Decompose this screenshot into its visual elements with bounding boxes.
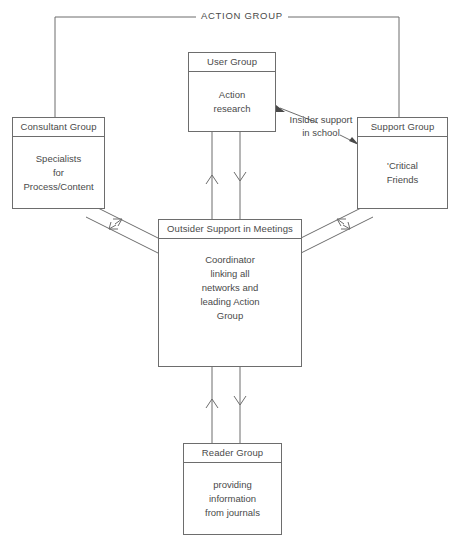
- node-support-group-body: 'Critical Friends: [358, 137, 447, 208]
- node-coordinator-header: Outsider Support in Meetings: [159, 220, 301, 239]
- annotation-insider-support: Insider support in school: [283, 113, 359, 139]
- action-group-label: ACTION GROUP: [196, 10, 288, 21]
- arrowhead-consultant-upleft: [113, 219, 122, 226]
- connector-consultant-coordinator-line-a: [98, 208, 158, 238]
- diagram-canvas: ACTION GROUP User Group Action research …: [0, 0, 459, 540]
- node-reader-group-body: providing information from journals: [184, 463, 281, 534]
- node-support-group-header: Support Group: [358, 118, 447, 137]
- connector-consultant-coordinator-line-b: [86, 217, 158, 253]
- node-consultant-group-header: Consultant Group: [13, 118, 104, 137]
- node-reader-group[interactable]: Reader Group providing information from …: [183, 443, 282, 535]
- node-coordinator[interactable]: Outsider Support in Meetings Coordinator…: [158, 219, 302, 367]
- node-reader-group-header: Reader Group: [184, 444, 281, 463]
- node-support-group[interactable]: Support Group 'Critical Friends: [357, 117, 448, 209]
- connector-support-coordinator-line-a: [301, 208, 361, 238]
- connector-support-coordinator-line-b: [301, 217, 373, 253]
- node-user-group-body: Action research: [189, 72, 275, 131]
- node-consultant-group-body: Specialists for Process/Content: [13, 137, 104, 208]
- node-user-group[interactable]: User Group Action research: [188, 52, 276, 132]
- node-coordinator-body: Coordinator linking all networks and lea…: [159, 239, 301, 366]
- arrowhead-support-upright: [337, 219, 346, 226]
- node-consultant-group[interactable]: Consultant Group Specialists for Process…: [12, 117, 105, 209]
- node-user-group-header: User Group: [189, 53, 275, 72]
